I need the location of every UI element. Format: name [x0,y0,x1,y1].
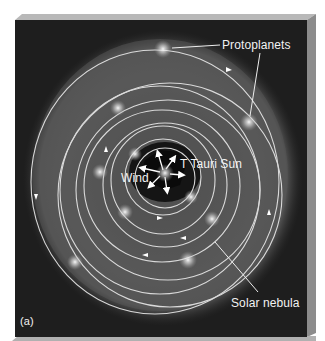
t-tauri-sun [156,164,174,182]
frame-top-face [15,14,316,20]
label-wind: Wind [121,171,149,185]
label-protoplanets: Protoplanets [222,38,291,52]
label-solar-nebula: Solar nebula [231,296,300,310]
panel-label: (a) [20,315,34,327]
frame-right-face [307,14,316,337]
label-t-tauri-sun: T Tauri Sun [180,157,242,171]
solar-nebula-diagram: Protoplanets T Tauri Sun Wind Solar nebu… [0,0,325,341]
